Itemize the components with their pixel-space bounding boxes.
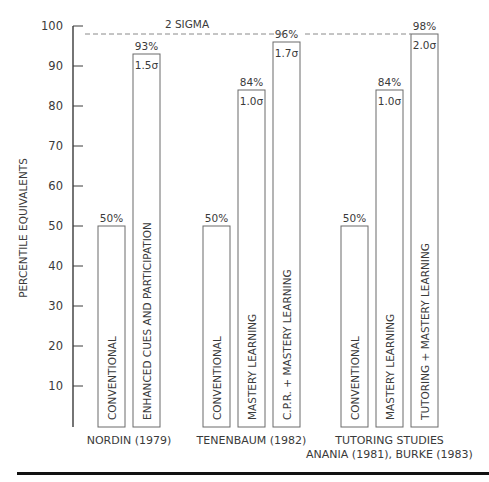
y-tick-label: 40 <box>48 259 63 273</box>
bar-sigma-label: 2.0σ <box>413 39 437 51</box>
group-label: TUTORING STUDIES <box>334 434 444 447</box>
bottom-rule <box>17 472 489 475</box>
bar-category-label: CONVENTIONAL <box>211 336 223 420</box>
y-tick-label: 60 <box>48 179 63 193</box>
y-tick-label: 20 <box>48 339 63 353</box>
y-tick-label: 70 <box>48 139 63 153</box>
group-label: ANANIA (1981), BURKE (1983) <box>306 448 473 461</box>
bar-value-label: 50% <box>343 212 366 224</box>
y-tick-label: 100 <box>41 19 63 33</box>
chart: 102030405060708090100PERCENTILE EQUIVALE… <box>0 0 489 482</box>
bar-sigma-label: 1.0σ <box>240 95 264 107</box>
bar-category-label: MASTERY LEARNING <box>384 314 396 420</box>
bar-value-label: 98% <box>413 20 436 32</box>
group-label: NORDIN (1979) <box>87 434 172 447</box>
bar-value-label: 84% <box>378 76 401 88</box>
y-axis-label: PERCENTILE EQUIVALENTS <box>17 158 29 298</box>
bar-sigma-label: 1.0σ <box>378 95 402 107</box>
bar-value-label: 50% <box>100 212 123 224</box>
bar-value-label: 93% <box>135 40 158 52</box>
bar-category-label: TUTORING + MASTERY LEARNING <box>419 243 431 421</box>
y-tick-label: 80 <box>48 99 63 113</box>
bar-sigma-label: 1.5σ <box>135 59 159 71</box>
bar-category-label: MASTERY LEARNING <box>246 314 258 420</box>
y-tick-label: 10 <box>48 379 63 393</box>
bar-value-label: 50% <box>205 212 228 224</box>
y-tick-label: 30 <box>48 299 63 313</box>
bar-value-label: 84% <box>240 76 263 88</box>
bar-sigma-label: 1.7σ <box>275 47 299 59</box>
bar-category-label: ENHANCED CUES AND PARTICIPATION <box>141 222 153 420</box>
reference-line-label: 2 SIGMA <box>165 18 210 30</box>
y-tick-label: 50 <box>48 219 63 233</box>
bar-category-label: C.P.R. + MASTERY LEARNING <box>281 269 293 420</box>
y-tick-label: 90 <box>48 59 63 73</box>
group-label: TENENBAUM (1982) <box>196 434 307 447</box>
bar-category-label: CONVENTIONAL <box>106 336 118 420</box>
bar-category-label: CONVENTIONAL <box>349 336 361 420</box>
